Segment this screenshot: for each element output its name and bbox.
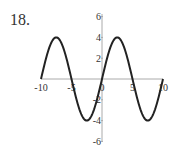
y-tick-label: 4 [96,32,101,43]
y-tick-label: -4 [93,115,101,126]
sine-graph: 642-2-4-6 -10-50510 [0,0,178,153]
y-tick-label: 2 [96,53,101,64]
y-tick-label: 6 [96,11,101,22]
x-tick-label: -10 [34,82,47,93]
y-tick-label: -6 [93,136,101,147]
